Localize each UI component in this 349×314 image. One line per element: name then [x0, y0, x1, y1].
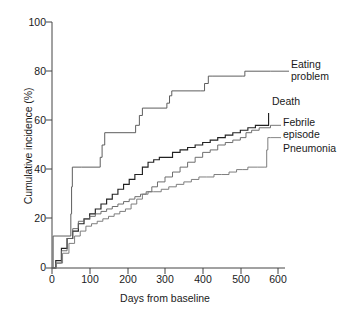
cumulative-incidence-chart: 100 80 60 40 20 0 0 100 200 300 400 500 … [0, 0, 349, 314]
legend-label-febrile-episode: Febrile episode [283, 117, 320, 140]
legend-label-pneumonia: Pneumonia [283, 143, 336, 155]
series-death [52, 113, 269, 268]
axis-lines [46, 22, 285, 274]
legend-label-death: Death [272, 96, 300, 108]
legend-label-eating-problem: Eating problem [291, 59, 329, 82]
series-febrile-episode [52, 125, 270, 268]
plot-area [0, 0, 349, 314]
